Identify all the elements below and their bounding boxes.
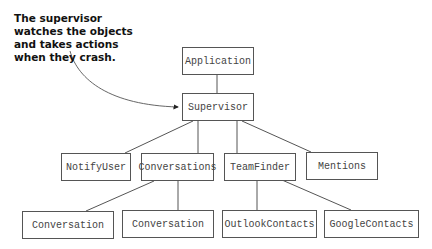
node-label: Mentions [318,161,366,172]
edge-teamfinder-googlecontacts [282,180,351,210]
node-label: NotifyUser [66,162,126,173]
edge-supervisor-mentions [242,121,311,152]
node-team-finder: TeamFinder [224,153,296,181]
node-label: Conversations [139,162,217,173]
node-label: TeamFinder [230,162,290,173]
node-supervisor: Supervisor [182,93,254,121]
node-outlook-contacts: OutlookContacts [222,210,317,238]
node-label: GoogleContacts [329,219,413,230]
node-label: Conversation [32,220,104,231]
node-label: Application [185,56,251,67]
supervision-tree-diagram: The supervisor watches the objects and t… [0,0,432,249]
node-label: Supervisor [188,102,248,113]
node-google-contacts: GoogleContacts [324,210,419,238]
node-conversations: Conversations [141,153,214,181]
annotation-callout: The supervisor watches the objects and t… [14,12,144,64]
node-label: OutlookContacts [224,219,314,230]
node-mentions: Mentions [306,152,378,180]
node-notify-user: NotifyUser [61,153,131,181]
node-label: Conversation [132,219,204,230]
edge-conversations-conversation1 [86,181,154,211]
edge-supervisor-notifyuser [125,121,193,153]
node-application: Application [182,47,254,75]
node-conversation-1: Conversation [22,211,114,239]
node-conversation-2: Conversation [122,210,214,238]
